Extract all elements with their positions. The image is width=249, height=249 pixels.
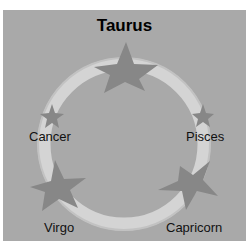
label-cancer: Cancer [29,129,71,144]
star-capricorn-icon [158,161,218,210]
ring-diagram [0,0,249,249]
label-virgo: Virgo [44,220,74,235]
ring-highlight [38,58,210,230]
label-capricorn: Capricorn [166,220,222,235]
title-taurus: Taurus [0,16,249,36]
star-taurus-icon [94,42,158,93]
label-pisces: Pisces [186,129,224,144]
